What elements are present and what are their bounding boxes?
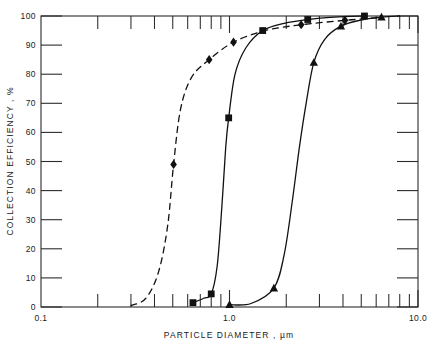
marker-square: [361, 13, 368, 20]
y-tick-label: 20: [26, 244, 36, 254]
curve-triangle: [230, 16, 400, 305]
y-axis-title: COLLECTION EFFICIENCY , %: [5, 86, 15, 235]
y-tick-label: 50: [26, 157, 36, 167]
plot-frame: [41, 16, 418, 307]
data-curves: [131, 16, 400, 306]
y-tick-label: 10: [26, 273, 36, 283]
y-tick-label: 0: [31, 302, 36, 312]
marker-diamond: [170, 160, 177, 169]
marker-square: [259, 27, 266, 34]
y-tick-label: 30: [26, 215, 36, 225]
chart-canvas: 0102030405060708090100 0.11.010.0 PARTIC…: [0, 0, 444, 346]
x-axis-ticks: [98, 16, 418, 307]
curve-diamond: [131, 17, 382, 305]
y-axis-ticks: [41, 16, 418, 307]
marker-triangle: [270, 284, 278, 292]
x-tick-label: 1.0: [223, 313, 236, 323]
x-axis-tick-labels: 0.11.010.0: [34, 313, 427, 323]
data-point-markers: [170, 13, 385, 308]
x-tick-label: 10.0: [409, 313, 427, 323]
plot-border: [41, 16, 418, 307]
y-tick-label: 90: [26, 40, 36, 50]
figure-container: 0102030405060708090100 0.11.010.0 PARTIC…: [0, 0, 444, 346]
y-tick-label: 100: [21, 11, 36, 21]
y-axis-tick-labels: 0102030405060708090100: [21, 11, 36, 312]
x-axis-title: PARTICLE DIAMETER , µm: [164, 330, 294, 340]
y-tick-label: 70: [26, 98, 36, 108]
marker-diamond: [298, 20, 305, 29]
marker-diamond: [230, 38, 237, 47]
y-tick-label: 40: [26, 186, 36, 196]
marker-triangle: [310, 58, 318, 66]
marker-diamond: [206, 55, 213, 64]
marker-square: [304, 16, 311, 23]
marker-square: [208, 291, 215, 298]
marker-square: [225, 114, 232, 121]
marker-square: [190, 299, 197, 306]
curve-square: [193, 16, 365, 303]
x-tick-label: 0.1: [34, 313, 47, 323]
y-tick-label: 80: [26, 69, 36, 79]
y-tick-label: 60: [26, 127, 36, 137]
